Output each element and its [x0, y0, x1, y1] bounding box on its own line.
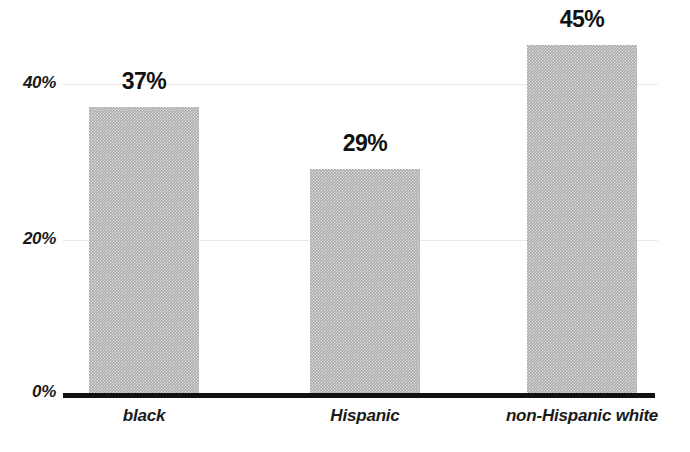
bar-black: [89, 107, 199, 395]
bar-value-label-black: 37%: [89, 68, 199, 95]
y-axis-tick-40: 40%: [0, 73, 56, 93]
bar-hispanic: [310, 169, 420, 395]
y-axis-tick-20: 20%: [0, 229, 56, 249]
plot-area: 40% 20% 0% 37% 29% 45% black Hispanic no…: [0, 0, 690, 452]
x-axis-label-non-hispanic-white: non-Hispanic white: [482, 406, 682, 426]
bar-non-hispanic-white: [527, 45, 637, 395]
x-axis-label-black: black: [69, 406, 219, 426]
bar-value-label-hispanic: 29%: [310, 130, 420, 157]
bar-chart: 40% 20% 0% 37% 29% 45% black Hispanic no…: [0, 0, 690, 452]
y-axis-tick-0: 0%: [0, 382, 56, 402]
x-axis-baseline: [63, 393, 655, 398]
x-axis-label-hispanic: Hispanic: [290, 406, 440, 426]
bar-value-label-non-hispanic-white: 45%: [527, 6, 637, 33]
